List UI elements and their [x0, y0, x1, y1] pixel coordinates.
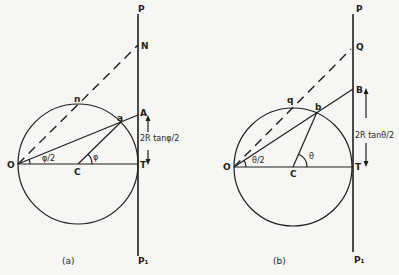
caption-a: (a)	[62, 256, 75, 266]
label-O-b: O	[223, 162, 231, 172]
angle-label-C-a: φ	[93, 153, 98, 162]
label-C-b: C	[290, 169, 297, 179]
dimension-label-a: 2R tanφ/2	[140, 134, 179, 143]
label-q: q	[287, 95, 293, 105]
caption-b: (b)	[273, 256, 286, 266]
angle-arc-O-b	[244, 160, 246, 167]
panel-a: P N A a n O C T P₁ φ/2 φ 2R tanφ/2 (a)	[7, 4, 179, 266]
angle-arc-C-b	[299, 154, 307, 167]
label-T-a: T	[140, 160, 147, 170]
label-n: n	[74, 94, 80, 104]
label-N: N	[141, 41, 149, 51]
radius-Ca	[78, 122, 121, 164]
label-O-a: O	[7, 160, 15, 170]
angle-label-O-b: θ/2	[252, 156, 265, 165]
label-B: B	[356, 85, 363, 95]
geometry-figure: P N A a n O C T P₁ φ/2 φ 2R tanφ/2 (a) P…	[0, 0, 399, 275]
dashed-line-OQ	[234, 49, 351, 167]
angle-arc-C-a	[88, 154, 92, 164]
angle-label-O-a: φ/2	[42, 154, 55, 163]
label-T-b: T	[355, 162, 362, 172]
label-P-b: P	[356, 4, 363, 14]
label-C-a: C	[74, 167, 81, 177]
angle-arc-O-a	[29, 159, 30, 164]
angle-label-C-b: θ	[309, 152, 314, 161]
label-A: A	[140, 108, 147, 118]
arrowhead-down-a	[146, 159, 151, 165]
label-a-point: a	[117, 113, 123, 123]
label-P-a: P	[138, 4, 145, 14]
arrowhead-down-b	[364, 161, 369, 167]
label-P1-b: P₁	[354, 255, 365, 265]
arrowhead-up-b	[364, 88, 369, 94]
dimension-label-b: 2R tanθ/2	[355, 131, 394, 140]
label-Q: Q	[356, 42, 364, 52]
label-b-point: b	[315, 102, 322, 112]
label-P1-a: P₁	[138, 256, 149, 266]
panel-b: P Q B b q O C T P₁ θ/2 θ 2R tanθ/2 (b)	[223, 4, 394, 266]
